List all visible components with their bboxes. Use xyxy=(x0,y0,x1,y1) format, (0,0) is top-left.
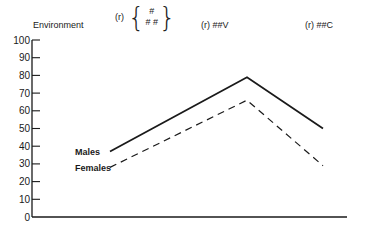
females-label: Females xyxy=(75,163,111,173)
y-tick-label: 40 xyxy=(19,141,31,152)
y-tick-label: 0 xyxy=(24,212,30,223)
y-tick-label: 100 xyxy=(13,35,30,46)
y-tick-label: 80 xyxy=(19,70,31,81)
males-label: Males xyxy=(75,147,100,157)
males-series-line xyxy=(110,77,323,151)
y-ticks xyxy=(32,40,40,199)
y-tick-label: 20 xyxy=(19,176,31,187)
line-chart: 0102030405060708090100 Males Females xyxy=(0,0,382,236)
y-tick-label: 50 xyxy=(19,123,31,134)
y-tick-labels: 0102030405060708090100 xyxy=(13,35,30,223)
y-tick-label: 10 xyxy=(19,194,31,205)
y-tick-label: 90 xyxy=(19,52,31,63)
y-tick-label: 30 xyxy=(19,158,31,169)
y-tick-label: 60 xyxy=(19,105,31,116)
y-tick-label: 70 xyxy=(19,88,31,99)
